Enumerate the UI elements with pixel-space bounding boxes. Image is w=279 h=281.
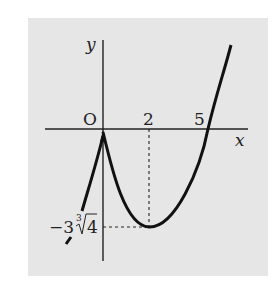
y-axis-label: y — [85, 34, 96, 54]
min-value-radicand: 4 — [87, 217, 98, 237]
tick-label-5: 5 — [194, 109, 205, 129]
function-graph: y x O 2 5 −3 3 4 — [0, 0, 279, 281]
min-value-label: −3 3 4 — [49, 213, 98, 237]
curve-left-tail — [66, 237, 71, 244]
x-axis-label: x — [235, 130, 245, 150]
curve-left-branch — [82, 136, 103, 211]
curve-right-branch — [103, 45, 231, 227]
min-value-prefix: −3 — [49, 217, 74, 237]
min-value-root-index: 3 — [76, 213, 82, 223]
origin-label: O — [83, 109, 97, 129]
tick-label-2: 2 — [143, 109, 154, 129]
